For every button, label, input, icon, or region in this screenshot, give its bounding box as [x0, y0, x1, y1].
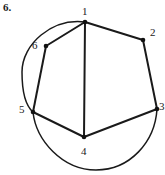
vertex-4-dot: [82, 135, 87, 140]
vertex-1-dot: [83, 20, 88, 25]
arcs-group: [22, 22, 157, 170]
upper-left-arc: [22, 22, 85, 112]
chord-6-1: [46, 22, 85, 46]
chord-2-3: [143, 40, 157, 109]
chord-3-4: [84, 109, 157, 137]
vertex-6-label: 6: [32, 40, 38, 51]
vertex-2-label: 2: [150, 27, 156, 38]
chord-4-5: [33, 112, 84, 137]
lower-arc: [33, 109, 157, 170]
chord-1-2: [85, 22, 143, 40]
vertex-5-dot: [31, 110, 36, 115]
vertex-3-label: 3: [159, 101, 165, 112]
chord-5-6: [33, 46, 46, 112]
figure-canvas: 6. 123456: [0, 0, 165, 175]
vertex-4-label: 4: [81, 146, 87, 157]
vertex-1-label: 1: [82, 6, 88, 17]
vertex-5-label: 5: [19, 104, 25, 115]
vertex-2-dot: [141, 38, 146, 43]
vertex-6-dot: [44, 44, 49, 49]
chord-1-4: [84, 22, 85, 137]
chords-group: [33, 22, 157, 137]
